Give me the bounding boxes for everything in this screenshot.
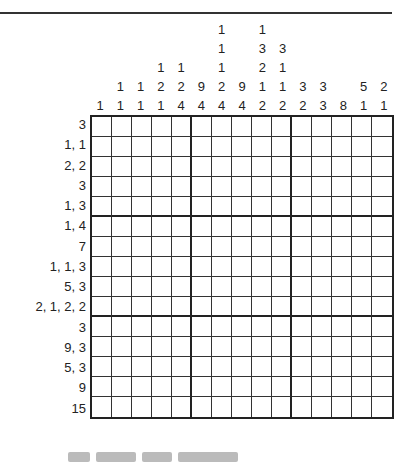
grid-cell[interactable] <box>112 357 132 377</box>
grid-cell[interactable] <box>372 357 392 377</box>
grid-cell[interactable] <box>292 397 312 417</box>
grid-cell[interactable] <box>152 297 172 317</box>
grid-cell[interactable] <box>152 397 172 417</box>
grid-cell[interactable] <box>192 157 212 177</box>
grid-cell[interactable] <box>112 237 132 257</box>
grid-cell[interactable] <box>92 177 112 197</box>
grid-cell[interactable] <box>112 297 132 317</box>
grid-cell[interactable] <box>212 217 232 237</box>
grid-cell[interactable] <box>192 237 212 257</box>
grid-cell[interactable] <box>252 297 272 317</box>
grid-cell[interactable] <box>132 257 152 277</box>
grid-cell[interactable] <box>332 197 352 217</box>
grid-cell[interactable] <box>232 357 252 377</box>
grid-cell[interactable] <box>352 297 372 317</box>
grid-cell[interactable] <box>172 397 192 417</box>
grid-cell[interactable] <box>232 237 252 257</box>
grid-cell[interactable] <box>92 137 112 157</box>
grid-cell[interactable] <box>312 157 332 177</box>
grid-cell[interactable] <box>92 157 112 177</box>
grid-cell[interactable] <box>332 357 352 377</box>
grid-cell[interactable] <box>112 257 132 277</box>
grid-cell[interactable] <box>312 117 332 137</box>
grid-cell[interactable] <box>252 337 272 357</box>
grid-cell[interactable] <box>352 157 372 177</box>
grid-cell[interactable] <box>152 157 172 177</box>
grid-cell[interactable] <box>172 237 192 257</box>
grid-cell[interactable] <box>152 117 172 137</box>
grid-cell[interactable] <box>272 237 292 257</box>
grid-cell[interactable] <box>312 297 332 317</box>
grid-cell[interactable] <box>232 317 252 337</box>
grid-cell[interactable] <box>272 377 292 397</box>
grid-cell[interactable] <box>92 357 112 377</box>
grid-cell[interactable] <box>92 397 112 417</box>
grid-cell[interactable] <box>232 217 252 237</box>
grid-cell[interactable] <box>312 237 332 257</box>
grid-cell[interactable] <box>352 237 372 257</box>
grid-cell[interactable] <box>332 237 352 257</box>
grid-cell[interactable] <box>272 297 292 317</box>
grid-cell[interactable] <box>352 197 372 217</box>
grid-cell[interactable] <box>352 117 372 137</box>
grid-cell[interactable] <box>252 117 272 137</box>
grid-cell[interactable] <box>352 337 372 357</box>
grid-cell[interactable] <box>352 277 372 297</box>
grid-cell[interactable] <box>92 277 112 297</box>
grid-cell[interactable] <box>272 137 292 157</box>
grid-cell[interactable] <box>212 337 232 357</box>
grid-cell[interactable] <box>272 337 292 357</box>
grid-cell[interactable] <box>272 357 292 377</box>
grid-cell[interactable] <box>192 177 212 197</box>
grid-cell[interactable] <box>312 317 332 337</box>
grid-cell[interactable] <box>172 117 192 137</box>
grid-cell[interactable] <box>132 177 152 197</box>
grid-cell[interactable] <box>292 217 312 237</box>
grid-cell[interactable] <box>372 337 392 357</box>
grid-cell[interactable] <box>152 197 172 217</box>
grid-cell[interactable] <box>192 137 212 157</box>
grid-cell[interactable] <box>192 277 212 297</box>
grid-cell[interactable] <box>152 217 172 237</box>
grid-cell[interactable] <box>372 297 392 317</box>
grid-cell[interactable] <box>232 337 252 357</box>
grid-cell[interactable] <box>332 397 352 417</box>
grid-cell[interactable] <box>92 197 112 217</box>
grid-cell[interactable] <box>372 317 392 337</box>
grid-cell[interactable] <box>92 337 112 357</box>
grid-cell[interactable] <box>132 397 152 417</box>
nonogram-grid[interactable] <box>90 115 394 419</box>
grid-cell[interactable] <box>192 317 212 337</box>
grid-cell[interactable] <box>192 337 212 357</box>
grid-cell[interactable] <box>252 197 272 217</box>
grid-cell[interactable] <box>152 237 172 257</box>
grid-cell[interactable] <box>252 157 272 177</box>
grid-cell[interactable] <box>352 377 372 397</box>
grid-cell[interactable] <box>252 317 272 337</box>
grid-cell[interactable] <box>232 197 252 217</box>
grid-cell[interactable] <box>212 177 232 197</box>
grid-cell[interactable] <box>212 377 232 397</box>
grid-cell[interactable] <box>372 237 392 257</box>
grid-cell[interactable] <box>92 217 112 237</box>
grid-cell[interactable] <box>132 297 152 317</box>
grid-cell[interactable] <box>252 217 272 237</box>
grid-cell[interactable] <box>132 317 152 337</box>
grid-cell[interactable] <box>132 197 152 217</box>
grid-cell[interactable] <box>232 277 252 297</box>
grid-cell[interactable] <box>272 257 292 277</box>
grid-cell[interactable] <box>92 377 112 397</box>
grid-cell[interactable] <box>112 337 132 357</box>
grid-cell[interactable] <box>152 357 172 377</box>
grid-cell[interactable] <box>92 297 112 317</box>
grid-cell[interactable] <box>232 397 252 417</box>
grid-cell[interactable] <box>272 177 292 197</box>
grid-cell[interactable] <box>332 337 352 357</box>
grid-cell[interactable] <box>272 397 292 417</box>
grid-cell[interactable] <box>312 377 332 397</box>
grid-cell[interactable] <box>272 117 292 137</box>
grid-cell[interactable] <box>332 377 352 397</box>
grid-cell[interactable] <box>252 237 272 257</box>
grid-cell[interactable] <box>352 177 372 197</box>
grid-cell[interactable] <box>312 257 332 277</box>
